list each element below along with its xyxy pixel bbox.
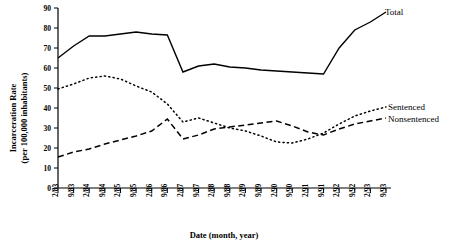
legend-label-nonsentenced: Nonsentenced	[388, 114, 439, 124]
y-tick-label: 40	[44, 104, 52, 113]
y-axis-ticks: 0102030405060708090	[44, 4, 59, 193]
series-line-sentenced	[58, 76, 386, 143]
x-tick-label: 9/92	[348, 183, 357, 197]
y-tick-label: 70	[44, 44, 52, 53]
x-tick-label: 2/93	[363, 183, 372, 197]
y-axis-title-line2: (per 100,000 inhabitants)	[19, 72, 29, 163]
x-axis-ticks: 2/839/832/849/842/859/852/869/862/879/87…	[51, 183, 388, 197]
y-tick-label: 90	[44, 4, 52, 13]
y-tick-label: 60	[44, 64, 52, 73]
y-axis-title: Incarceration Rate (per 100,000 inhabita…	[8, 72, 29, 163]
x-tick-label: 9/88	[223, 183, 232, 197]
x-tick-label: 2/89	[238, 183, 247, 197]
x-tick-label: 9/87	[192, 183, 201, 197]
x-tick-label: 2/86	[145, 183, 154, 197]
series-line-total	[58, 12, 386, 74]
series-line-nonsentenced	[58, 118, 386, 157]
x-tick-label: 9/86	[160, 183, 169, 197]
x-tick-label: 2/88	[207, 183, 216, 197]
series-layer	[58, 12, 386, 157]
y-tick-label: 10	[44, 164, 52, 173]
chart-legend: Total Sentenced Nonsentenced	[385, 7, 439, 124]
x-tick-label: 9/84	[98, 183, 107, 197]
x-tick-label: 2/84	[82, 183, 91, 197]
x-axis-title: Date (month, year)	[190, 230, 259, 240]
y-tick-label: 30	[44, 124, 52, 133]
y-axis-title-line1: Incarceration Rate	[8, 84, 18, 153]
x-tick-label: 9/85	[129, 183, 138, 197]
y-tick-label: 20	[44, 144, 52, 153]
legend-label-sentenced: Sentenced	[388, 102, 425, 112]
x-tick-label: 2/92	[332, 183, 341, 197]
x-tick-label: 9/89	[254, 183, 263, 197]
x-tick-label: 2/90	[270, 183, 279, 197]
x-tick-label: 9/90	[285, 183, 294, 197]
incarceration-rate-chart: Incarceration Rate (per 100,000 inhabita…	[0, 0, 449, 243]
x-tick-label: 9/83	[67, 183, 76, 197]
x-tick-label: 9/93	[379, 183, 388, 197]
y-tick-label: 50	[44, 84, 52, 93]
chart-canvas: Incarceration Rate (per 100,000 inhabita…	[0, 0, 449, 243]
x-tick-label: 2/85	[113, 183, 122, 197]
legend-label-total: Total	[385, 7, 404, 17]
x-tick-label: 9/91	[317, 183, 326, 197]
x-tick-label: 2/87	[176, 183, 185, 197]
x-tick-label: 2/91	[301, 183, 310, 197]
y-tick-label: 80	[44, 24, 52, 33]
x-tick-label: 2/83	[51, 183, 60, 197]
